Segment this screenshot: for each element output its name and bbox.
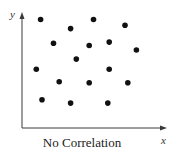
data-point xyxy=(38,17,44,23)
data-point xyxy=(68,100,74,106)
axes xyxy=(20,12,168,131)
data-point xyxy=(106,66,112,72)
data-point xyxy=(91,17,97,23)
data-point xyxy=(39,97,45,103)
data-point xyxy=(86,80,92,86)
data-point xyxy=(74,56,80,62)
data-point xyxy=(134,47,140,53)
data-point xyxy=(125,80,131,86)
data-point xyxy=(51,41,57,47)
data-point xyxy=(122,22,128,28)
data-point xyxy=(34,66,40,72)
data-point xyxy=(106,39,112,45)
data-point xyxy=(56,79,62,85)
data-point xyxy=(68,26,74,32)
data-points xyxy=(34,17,140,106)
y-axis-label: y xyxy=(10,9,15,20)
scatter-plot xyxy=(0,0,174,153)
data-point xyxy=(105,100,111,106)
y-axis-arrow-icon xyxy=(20,12,25,19)
data-point xyxy=(86,43,92,49)
chart-title: No Correlation xyxy=(0,136,162,149)
x-axis-arrow-icon xyxy=(160,126,167,131)
